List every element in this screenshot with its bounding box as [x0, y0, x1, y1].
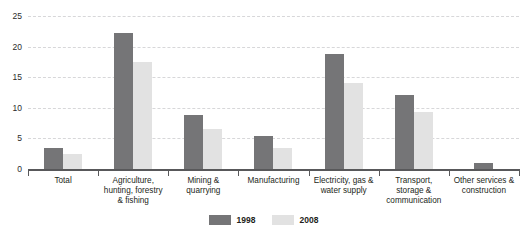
bar-2008 — [344, 83, 363, 169]
x-axis-label: Mining &quarrying — [168, 176, 238, 206]
x-axis-label-line: Transport, — [381, 176, 447, 186]
bar-1998 — [325, 54, 344, 169]
chart-legend: 19982008 — [0, 215, 527, 225]
y-tick-label-0: 0 — [0, 165, 22, 173]
bar-group — [238, 16, 308, 169]
y-tick-label-25: 25 — [0, 12, 22, 20]
legend-swatch — [209, 215, 231, 225]
y-tick-label-15: 15 — [0, 73, 22, 81]
bar-1998 — [254, 136, 273, 169]
x-axis-label-line: Mining & — [170, 176, 236, 186]
bar-group — [309, 16, 379, 169]
bar-2008 — [63, 154, 82, 169]
x-axis-label-line: Agriculture, — [100, 176, 166, 186]
bar-group — [28, 16, 98, 169]
bar-1998 — [395, 95, 414, 169]
legend-swatch — [272, 215, 294, 225]
x-axis-label-line: Total — [30, 176, 96, 186]
x-axis-label: Transport,storage &communication — [379, 176, 449, 206]
x-axis-label-line: construction — [451, 186, 517, 196]
x-axis-labels: TotalAgriculture,hunting, forestry& fish… — [28, 176, 519, 206]
x-axis-tick — [168, 169, 169, 176]
x-axis-label-line: Electricity, gas & — [311, 176, 377, 186]
x-axis-label-line: Other services & — [451, 176, 517, 186]
x-axis-label-line: water supply — [311, 186, 377, 196]
bar-2008 — [203, 129, 222, 169]
legend-item[interactable]: 2008 — [272, 215, 319, 225]
x-axis-label: Other services &construction — [449, 176, 519, 206]
x-axis-tick — [379, 169, 380, 176]
x-axis-tick — [449, 169, 450, 176]
x-axis-tick — [238, 169, 239, 176]
legend-label: 2008 — [300, 215, 319, 225]
x-axis-label-line: Manufacturing — [240, 176, 306, 186]
bar-1998 — [114, 33, 133, 169]
x-axis-label-line: communication — [381, 196, 447, 206]
bar-groups — [28, 16, 519, 169]
legend-label: 1998 — [237, 215, 256, 225]
legend-item[interactable]: 1998 — [209, 215, 256, 225]
bar-2008 — [273, 148, 292, 169]
x-axis-label-line: storage & — [381, 186, 447, 196]
x-axis-label: Manufacturing — [238, 176, 308, 206]
bar-group — [449, 16, 519, 169]
y-tick-label-5: 5 — [0, 134, 22, 142]
x-axis-label-line: quarrying — [170, 186, 236, 196]
x-axis-label: Electricity, gas &water supply — [309, 176, 379, 206]
x-axis-tick — [28, 169, 29, 176]
bar-2008 — [414, 112, 433, 169]
x-axis-label-line: hunting, forestry — [100, 186, 166, 196]
bar-1998 — [44, 148, 63, 169]
bar-chart: 0510152025 TotalAgriculture,hunting, for… — [0, 0, 527, 236]
x-axis-label-line: & fishing — [100, 196, 166, 206]
x-axis-label: Agriculture,hunting, forestry& fishing — [98, 176, 168, 206]
x-axis-tick — [309, 169, 310, 176]
y-tick-label-20: 20 — [0, 43, 22, 51]
x-axis-tick — [519, 169, 520, 176]
x-axis-label: Total — [28, 176, 98, 206]
bar-group — [168, 16, 238, 169]
bar-group — [98, 16, 168, 169]
x-axis-baseline — [28, 169, 519, 171]
cropped-top-rule — [0, 0, 527, 3]
bar-group — [379, 16, 449, 169]
bar-2008 — [133, 62, 152, 169]
x-axis-tick — [98, 169, 99, 176]
y-tick-label-10: 10 — [0, 104, 22, 112]
bar-1998 — [184, 115, 203, 169]
